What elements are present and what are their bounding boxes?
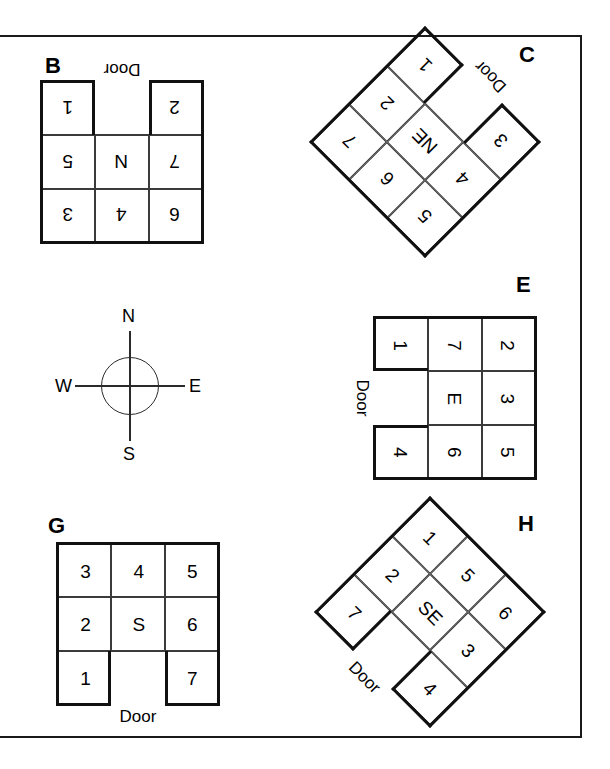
panel-g-door-label: Door bbox=[98, 708, 178, 725]
panel-b-door-label: Door bbox=[82, 61, 162, 78]
panel-e-wall-left bbox=[373, 316, 537, 319]
panel-g-grid-cell-r1-c1: S bbox=[111, 597, 164, 650]
panel-g: 3452S617 Door bbox=[38, 524, 238, 724]
panel-b-grid-label-r2-c0: 2 bbox=[148, 81, 201, 134]
panel-e-grid-cell-r1-c0: 7 bbox=[428, 318, 481, 371]
panel-g-door-jamb-right bbox=[165, 651, 168, 706]
panel-e-door-jamb-right bbox=[373, 425, 428, 428]
panel-e-grid-cell-r1-c1: E bbox=[428, 371, 481, 424]
panel-b-wall-left bbox=[201, 80, 204, 244]
panel-e-grid-label-r1-c0: 7 bbox=[427, 319, 480, 372]
compass-west-label: W bbox=[55, 377, 72, 395]
panel-c-grid: 5674NE231 bbox=[312, 29, 538, 255]
panel-g-wall-left bbox=[56, 542, 59, 706]
panel-e-grid-label-r1-c2: 6 bbox=[427, 426, 480, 479]
panel-b-grid-label-r2-c1 bbox=[95, 81, 148, 134]
panel-g-grid-label-r0-c1: 4 bbox=[112, 545, 165, 598]
panel-e-grid-label-r2-c2: 4 bbox=[374, 426, 427, 479]
panel-h-grid: 1562SE374 bbox=[317, 499, 543, 725]
panel-b-grid-cell-r1-c1: N bbox=[95, 135, 148, 188]
panel-g-grid-cell-r2-c0: 1 bbox=[58, 651, 111, 704]
panel-e-grid-cell-r0-c1: 3 bbox=[482, 371, 535, 424]
panel-b-grid-cell-r1-c0: 7 bbox=[149, 135, 202, 188]
panel-b: 6437N521 Door bbox=[22, 62, 222, 262]
panel-g-door-jamb-left bbox=[108, 651, 111, 706]
panel-g-wall-bottom-right bbox=[165, 703, 220, 706]
panel-e-grid-cell-r1-c2: 6 bbox=[428, 425, 481, 478]
panel-e-wall-bottom-left bbox=[373, 316, 376, 371]
panel-b-grid-cell-r2-c0: 2 bbox=[149, 82, 202, 135]
panel-b-grid-label-r0-c2: 3 bbox=[41, 188, 94, 241]
panel-b-grid-cell-r0-c0: 6 bbox=[149, 189, 202, 242]
panel-b-wall-top bbox=[40, 241, 204, 244]
panel-e-grid-label-r0-c2: 5 bbox=[481, 426, 534, 479]
panel-e-grid-cell-r2-c1 bbox=[375, 371, 428, 424]
panel-e-wall-bottom-right bbox=[373, 425, 376, 480]
panel-b-door-jamb-right bbox=[92, 80, 95, 135]
panel-g-grid-cell-r1-c0: 2 bbox=[58, 597, 111, 650]
panel-b-grid-cell-r0-c1: 4 bbox=[95, 189, 148, 242]
figure-root: 6437N521 Door B 5674NE231 Door C 2 bbox=[0, 0, 610, 769]
panel-g-grid-cell-r1-c2: 6 bbox=[165, 597, 218, 650]
panel-g-grid-label-r2-c2: 7 bbox=[166, 652, 219, 705]
panel-g-grid-cell-r0-c1: 4 bbox=[111, 544, 164, 597]
panel-b-letter: B bbox=[45, 55, 61, 77]
panel-h: 1562SE374 Door bbox=[330, 512, 530, 712]
panel-g-wall-bottom-left bbox=[56, 703, 111, 706]
panel-b-wall-bottom-left bbox=[149, 80, 204, 83]
panel-b-grid-cell-r0-c2: 3 bbox=[42, 189, 95, 242]
panel-e-grid-label-r0-c1: 3 bbox=[481, 372, 534, 425]
panel-b-grid-label-r1-c1: N bbox=[94, 134, 147, 187]
panel-g-stage: 3452S617 Door bbox=[38, 524, 238, 724]
panel-g-wall-right bbox=[217, 542, 220, 706]
compass-east-label: E bbox=[189, 377, 201, 395]
panel-b-grid: 6437N521 bbox=[42, 82, 202, 242]
panel-c-letter: C bbox=[519, 44, 535, 66]
panel-e-wall-right bbox=[373, 477, 537, 480]
panel-h-letter: H bbox=[518, 513, 534, 535]
panel-g-wall-top bbox=[56, 542, 220, 545]
panel-e-grid: 2357E614 bbox=[375, 318, 535, 478]
panel-e-grid-label-r1-c1: E bbox=[427, 372, 480, 425]
panel-g-grid-cell-r2-c1 bbox=[111, 651, 164, 704]
panel-b-wall-right bbox=[40, 80, 43, 244]
panel-b-grid-label-r1-c2: 5 bbox=[41, 134, 94, 187]
panel-e-grid-cell-r0-c2: 5 bbox=[482, 425, 535, 478]
panel-e-stage: 2357E614 Door bbox=[355, 298, 555, 498]
panel-g-grid-label-r1-c1: S bbox=[112, 598, 165, 651]
compass-rose: N E S W bbox=[55, 305, 205, 470]
panel-g-grid-cell-r0-c0: 3 bbox=[58, 544, 111, 597]
panel-b-grid-cell-r1-c2: 5 bbox=[42, 135, 95, 188]
compass-north-label: N bbox=[122, 307, 135, 325]
panel-b-grid-cell-r2-c1 bbox=[95, 82, 148, 135]
panel-g-grid: 3452S617 bbox=[58, 544, 218, 704]
panel-g-grid-label-r2-c1 bbox=[111, 652, 164, 705]
panel-g-grid-label-r2-c0: 1 bbox=[59, 652, 112, 705]
panel-e-door-label: Door bbox=[354, 358, 371, 438]
panel-g-grid-label-r0-c2: 5 bbox=[166, 545, 219, 598]
panel-e-grid-cell-r2-c2: 4 bbox=[375, 425, 428, 478]
compass-south-label: S bbox=[123, 445, 135, 463]
panel-g-grid-label-r1-c2: 6 bbox=[166, 598, 219, 651]
panel-g-grid-label-r1-c0: 2 bbox=[59, 598, 112, 651]
panel-e-wall-top bbox=[534, 316, 537, 480]
panel-g-grid-cell-r2-c2: 7 bbox=[165, 651, 218, 704]
panel-g-letter: G bbox=[48, 515, 65, 537]
panel-b-grid-cell-r2-c2: 1 bbox=[42, 82, 95, 135]
panel-b-grid-label-r1-c0: 7 bbox=[148, 134, 201, 187]
panel-b-door-jamb-left bbox=[149, 80, 152, 135]
panel-b-grid-label-r2-c2: 1 bbox=[41, 81, 94, 134]
panel-b-grid-label-r0-c1: 4 bbox=[94, 188, 147, 241]
panel-e-grid-cell-r2-c0: 1 bbox=[375, 318, 428, 371]
panel-g-grid-cell-r0-c2: 5 bbox=[165, 544, 218, 597]
panel-e-grid-cell-r0-c0: 2 bbox=[482, 318, 535, 371]
panel-b-stage: 6437N521 Door bbox=[22, 62, 222, 262]
panel-b-wall-bottom-right bbox=[40, 80, 95, 83]
panel-b-grid-label-r0-c0: 6 bbox=[148, 188, 201, 241]
panel-e-grid-label-r2-c1 bbox=[374, 371, 427, 424]
panel-e-grid-label-r0-c0: 2 bbox=[481, 319, 534, 372]
panel-c: 5674NE231 Door bbox=[325, 42, 525, 242]
panel-e: 2357E614 Door bbox=[355, 298, 555, 498]
compass-ring bbox=[101, 357, 159, 415]
panel-e-door-jamb-left bbox=[373, 368, 428, 371]
